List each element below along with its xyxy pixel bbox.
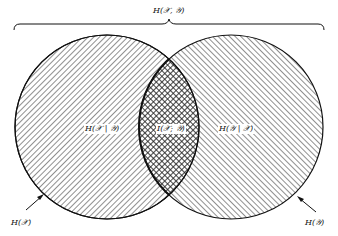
venn-diagram [0,0,338,236]
total-brace [14,19,324,30]
entropy-x-label: H(𝒳) [10,218,32,228]
conditional-entropy-x-label: H(𝒳 | 𝒴) [84,124,120,134]
conditional-entropy-y-label: H(𝒴 | 𝒳) [218,124,254,134]
entropy-y-label: H(𝒴) [304,218,325,228]
total-entropy-label: H(𝒳, 𝒴) [152,6,185,16]
mutual-information-label: I(𝒳; 𝒴) [156,124,186,134]
